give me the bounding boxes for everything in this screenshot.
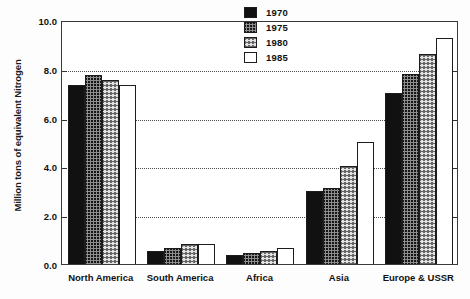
bar-1970-north-america	[68, 85, 85, 264]
y-tick-label: 2.0	[5, 211, 57, 222]
bar-1980-europe-ussr	[419, 54, 436, 264]
legend-label: 1975	[266, 22, 288, 33]
bar-group	[141, 20, 220, 264]
bar-1985-north-america	[119, 85, 136, 264]
bar-group	[62, 20, 141, 264]
x-axis-label: North America	[68, 272, 133, 283]
legend-label: 1985	[266, 52, 288, 63]
bar-1980-south-america	[181, 244, 198, 264]
bar-group	[300, 20, 379, 264]
legend-swatch-1970	[244, 7, 257, 18]
chart-legend: 1970197519801985	[244, 5, 288, 65]
y-tick-label: 10.0	[5, 16, 57, 27]
legend-item-1980: 1980	[244, 35, 288, 49]
bar-1975-europe-ussr	[402, 74, 419, 264]
legend-item-1970: 1970	[244, 5, 288, 19]
legend-swatch-1985	[244, 52, 257, 63]
y-tick-label: 0.0	[5, 260, 57, 271]
x-axis-label: South America	[147, 272, 214, 283]
bar-1985-asia	[357, 142, 374, 264]
x-axis-label: Asia	[329, 272, 349, 283]
bar-1985-europe-ussr	[436, 38, 453, 264]
bar-1980-north-america	[102, 80, 119, 264]
bar-1985-africa	[277, 248, 294, 264]
bar-chart: Million tons of equivalent Nitrogen 10.0…	[0, 0, 470, 299]
bar-1980-africa	[260, 251, 277, 264]
legend-swatch-1980	[244, 37, 257, 48]
bar-1975-asia	[323, 188, 340, 264]
bar-1970-south-america	[147, 251, 164, 264]
bar-1985-south-america	[198, 244, 215, 264]
legend-item-1985: 1985	[244, 50, 288, 64]
y-tick-label: 6.0	[5, 113, 57, 124]
legend-item-1975: 1975	[244, 20, 288, 34]
legend-label: 1970	[266, 7, 288, 18]
y-tick-label: 4.0	[5, 162, 57, 173]
x-axis-label: Europe & USSR	[383, 272, 454, 283]
legend-label: 1980	[266, 37, 288, 48]
y-tick-label: 8.0	[5, 64, 57, 75]
bar-1970-africa	[226, 255, 243, 264]
bar-1970-europe-ussr	[385, 93, 402, 264]
bar-1975-north-america	[85, 75, 102, 264]
bar-1970-asia	[306, 191, 323, 264]
bar-1980-asia	[340, 166, 357, 264]
bar-1975-south-america	[164, 248, 181, 264]
bar-group	[380, 20, 459, 264]
x-axis-label: Africa	[246, 272, 273, 283]
legend-swatch-1975	[244, 22, 257, 33]
bar-1975-africa	[243, 253, 260, 264]
